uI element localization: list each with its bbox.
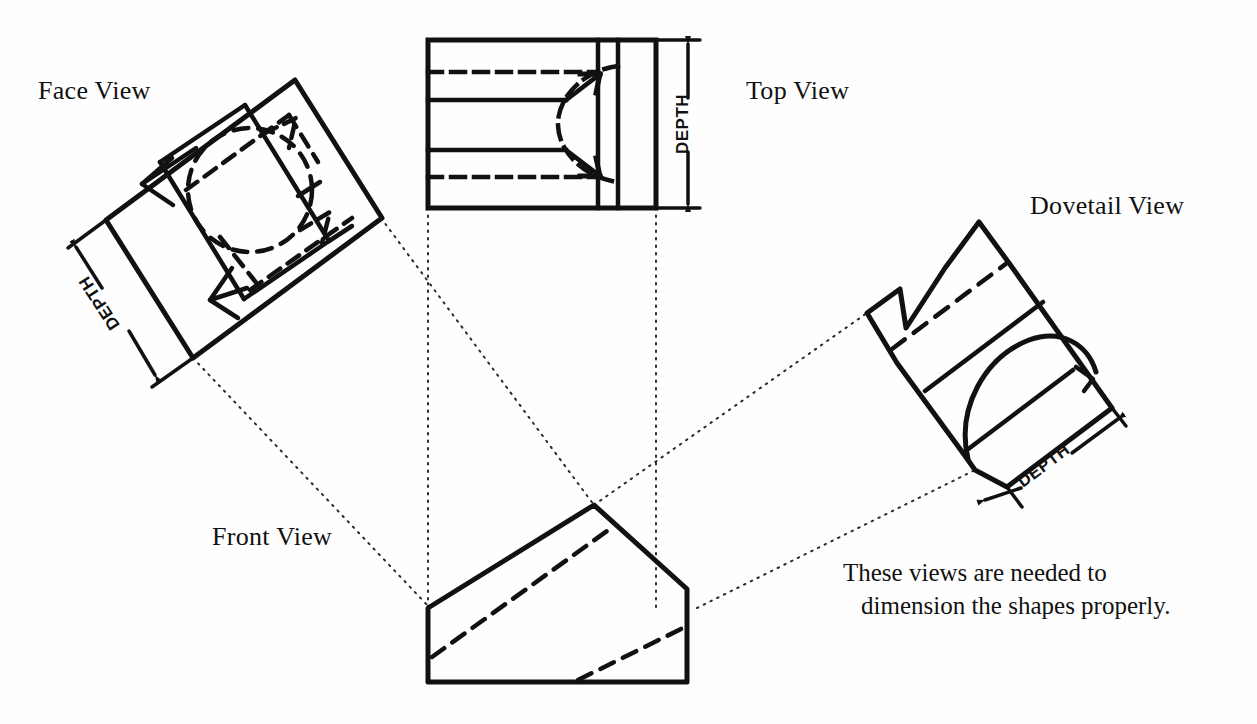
projection-line-front-apex-to-dovetail xyxy=(594,313,867,505)
caption-line-1: These views are needed to xyxy=(843,556,1243,589)
face-view-outline xyxy=(106,80,382,358)
face-view-geometry xyxy=(106,80,382,358)
face-view-depth-dimension xyxy=(68,220,193,387)
face-depth-dim-line-lower xyxy=(129,331,155,375)
label-front-view: Front View xyxy=(212,522,332,552)
front-view-body-outline xyxy=(428,505,687,682)
face-view-slot-edges xyxy=(160,105,329,299)
dovetail-view-outline xyxy=(867,222,1112,487)
label-face-view: Face View xyxy=(38,76,151,106)
dovetail-view-geometry xyxy=(867,222,1112,487)
face-depth-extension-top xyxy=(68,220,106,248)
top-view-depth-label: DEPTH xyxy=(673,94,692,154)
front-view-hidden-lower-slope xyxy=(578,627,685,680)
projection-line-face-upper-to-top xyxy=(381,218,594,505)
dovetail-view-hidden-edge xyxy=(892,263,1007,349)
top-view-geometry xyxy=(428,40,656,208)
drawing-page: DEPTH xyxy=(0,0,1257,724)
top-view-outline xyxy=(428,40,656,208)
top-view-solid-edges xyxy=(428,40,618,208)
label-top-view: Top View xyxy=(746,76,849,106)
dovetail-view-step-notch xyxy=(1076,367,1093,391)
projection-line-face-to-front xyxy=(193,358,429,607)
face-depth-extension-bottom xyxy=(152,358,193,387)
caption-block: These views are needed to dimension the … xyxy=(843,556,1243,622)
dovetail-view-depth-label: DEPTH xyxy=(1014,440,1073,491)
front-view-geometry xyxy=(428,505,687,682)
label-dovetail-view: Dovetail View xyxy=(1030,191,1184,221)
caption-line-2: dimension the shapes properly. xyxy=(843,589,1243,622)
